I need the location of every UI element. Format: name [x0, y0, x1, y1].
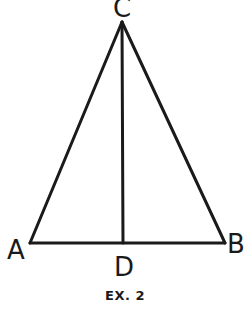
segment-bc	[122, 22, 225, 243]
vertex-label-c: C	[113, 0, 131, 23]
segment-ac	[30, 22, 122, 243]
point-label-d: D	[114, 252, 134, 282]
triangle-figure: C A B D EX. 2	[0, 0, 249, 309]
segment-cd-altitude	[122, 22, 123, 243]
figure-caption: EX. 2	[105, 288, 145, 303]
vertex-label-a: A	[7, 235, 25, 265]
vertex-label-b: B	[227, 229, 245, 259]
